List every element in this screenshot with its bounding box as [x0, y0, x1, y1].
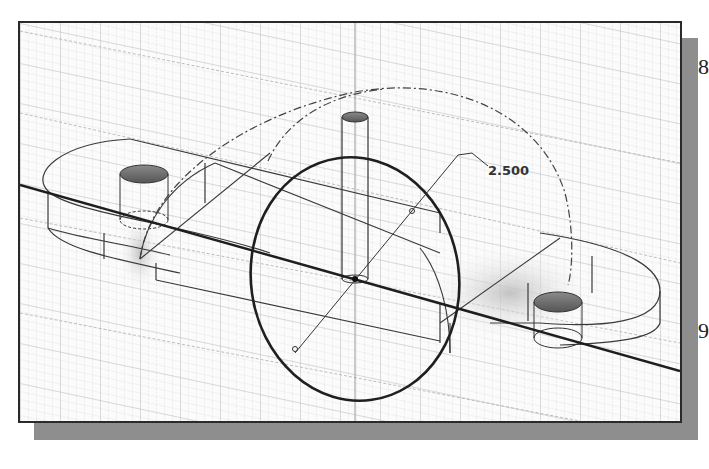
model-canvas[interactable]: 2.500 [20, 23, 680, 421]
page-edge-char-top: 8 [698, 54, 709, 80]
dimension-label[interactable]: 2.500 [488, 163, 529, 178]
cad-viewport[interactable]: 2.500 [18, 21, 682, 423]
center-point[interactable] [352, 276, 358, 282]
sketch-grid [20, 23, 680, 421]
page-edge-char-bottom: 9 [698, 318, 709, 344]
